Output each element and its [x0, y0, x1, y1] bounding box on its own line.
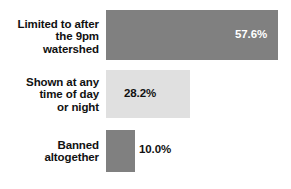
chart-bar-row: Limited to after the 9pm watershed 57.6% — [0, 10, 291, 60]
chart-bar-row: Banned altogether 10.0% — [0, 130, 291, 172]
category-label-limited-to-after-the-9pm-watershed: Limited to after the 9pm watershed — [0, 18, 99, 55]
bar-value-label-shown-at-any-time-of-day-or-night: 28.2% — [124, 87, 156, 99]
category-label-banned-altogether: Banned altogether — [0, 139, 99, 164]
bar-value-label-limited-to-after-the-9pm-watershed: 57.6% — [235, 28, 267, 40]
chart-bar-row: Shown at any time of day or night 28.2% — [0, 70, 291, 118]
bar-banned-altogether — [106, 130, 135, 172]
category-label-shown-at-any-time-of-day-or-night: Shown at any time of day or night — [0, 76, 99, 113]
bar-value-label-banned-altogether: 10.0% — [139, 143, 171, 155]
bar-chart: Limited to after the 9pm watershed 57.6%… — [0, 0, 291, 189]
